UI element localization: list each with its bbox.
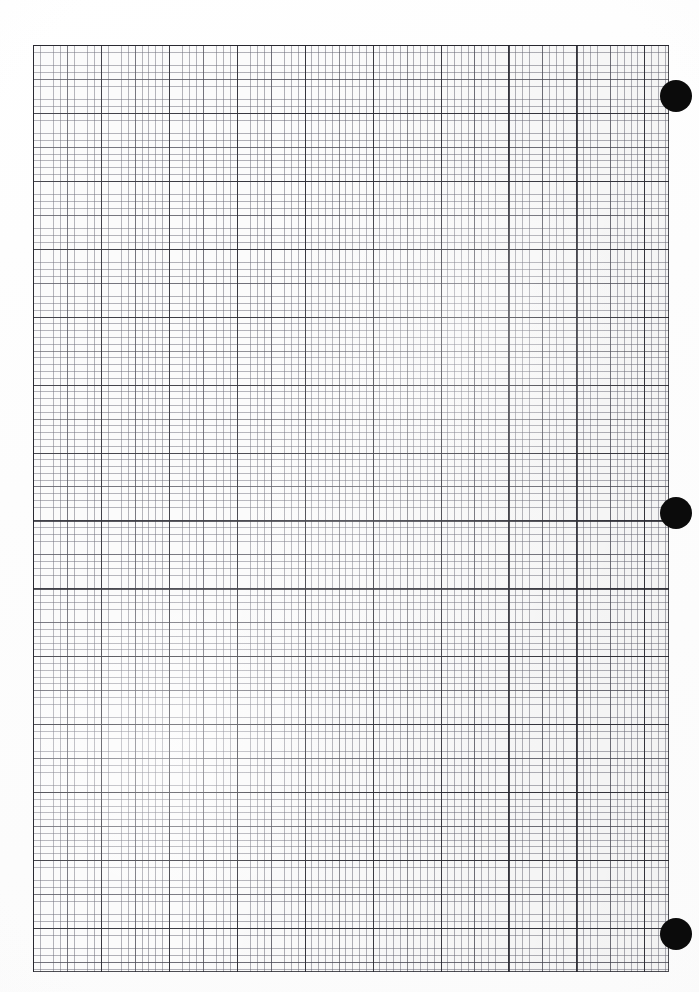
punch-mark-top: [660, 80, 692, 112]
punch-mark-middle: [660, 497, 692, 529]
punch-mark-bottom: [660, 918, 692, 950]
graph-grid: [33, 45, 669, 972]
graph-paper-page: Graph Paper Sheet Ruled graph paper grid…: [0, 0, 699, 992]
